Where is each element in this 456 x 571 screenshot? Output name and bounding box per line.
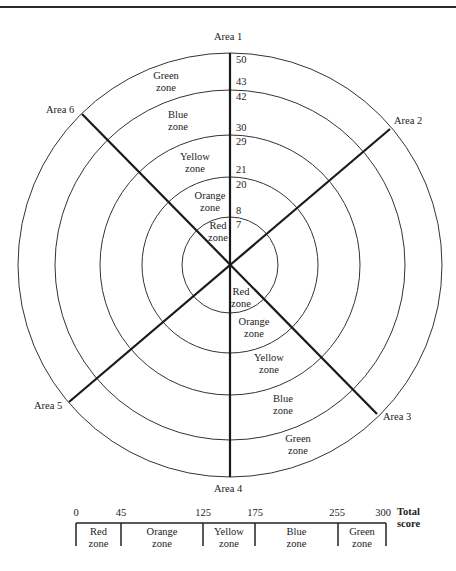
axis-number-20: 20 xyxy=(236,179,247,191)
area-6-label: Area 6 xyxy=(46,104,74,116)
axis-number-42: 42 xyxy=(236,91,247,103)
zone-label-line1: Red xyxy=(193,220,243,232)
zone-label-line2: zone xyxy=(153,121,203,133)
total-score-line1: Total xyxy=(397,506,420,518)
zone-label-line2: zone xyxy=(258,405,308,417)
zone-label-line2: zone xyxy=(185,202,235,214)
upper-green-zone-label: Green zone xyxy=(141,70,191,94)
lower-red-zone-label: Red zone xyxy=(216,286,266,310)
score-tick-300: 300 xyxy=(375,507,391,519)
lower-blue-zone-label: Blue zone xyxy=(258,393,308,417)
score-tick-175: 175 xyxy=(247,507,263,519)
axis-number-21: 21 xyxy=(236,164,247,176)
axis-number-8: 8 xyxy=(236,205,241,217)
segment-line1: Yellow xyxy=(203,526,255,538)
segment-line1: Orange xyxy=(121,526,203,538)
upper-blue-zone-label: Blue zone xyxy=(153,109,203,133)
lower-yellow-zone-label: Yellow zone xyxy=(244,352,294,376)
zone-label-line1: Yellow xyxy=(244,352,294,364)
area-1-label: Area 1 xyxy=(214,31,242,43)
zone-label-line1: Green xyxy=(141,70,191,82)
segment-line1: Blue xyxy=(255,526,338,538)
zone-label-line1: Orange xyxy=(229,316,279,328)
zone-label-line2: zone xyxy=(193,232,243,244)
axis-number-29: 29 xyxy=(236,136,247,148)
zone-label-line1: Orange xyxy=(185,190,235,202)
bar-blue-zone: Blue zone xyxy=(255,526,338,550)
area-4-label: Area 4 xyxy=(214,483,242,495)
upper-yellow-zone-label: Yellow zone xyxy=(170,151,220,175)
lower-orange-zone-label: Orange zone xyxy=(229,316,279,340)
zone-label-line2: zone xyxy=(244,364,294,376)
area-2-label: Area 2 xyxy=(394,115,422,127)
bar-yellow-zone: Yellow zone xyxy=(203,526,255,550)
segment-line2: zone xyxy=(121,538,203,550)
zone-label-line2: zone xyxy=(170,163,220,175)
score-tick-0: 0 xyxy=(73,507,78,519)
axis-number-50: 50 xyxy=(236,54,247,66)
area-5-label: Area 5 xyxy=(34,400,62,412)
segment-line2: zone xyxy=(203,538,255,550)
score-tick-255: 255 xyxy=(329,507,345,519)
total-score-title: Total score xyxy=(397,506,420,530)
zone-label-line1: Blue xyxy=(153,109,203,121)
axis-number-30: 30 xyxy=(236,122,247,134)
zone-label-line1: Red xyxy=(216,286,266,298)
zone-label-line2: zone xyxy=(273,445,323,457)
segment-line2: zone xyxy=(338,538,386,550)
score-tick-125: 125 xyxy=(195,507,211,519)
segment-line2: zone xyxy=(76,538,121,550)
zone-label-line2: zone xyxy=(216,298,266,310)
total-score-line2: score xyxy=(397,518,420,530)
area-3-label: Area 3 xyxy=(383,411,411,423)
score-tick-45: 45 xyxy=(116,507,127,519)
zone-label-line1: Blue xyxy=(258,393,308,405)
bar-orange-zone: Orange zone xyxy=(121,526,203,550)
segment-line2: zone xyxy=(255,538,338,550)
zone-label-line1: Yellow xyxy=(170,151,220,163)
zone-label-line2: zone xyxy=(229,328,279,340)
segment-line1: Green xyxy=(338,526,386,538)
bar-red-zone: Red zone xyxy=(76,526,121,550)
axis-number-43: 43 xyxy=(236,76,247,88)
zone-label-line2: zone xyxy=(141,82,191,94)
bar-green-zone: Green zone xyxy=(338,526,386,550)
segment-line1: Red xyxy=(76,526,121,538)
upper-red-zone-label: Red zone xyxy=(193,220,243,244)
lower-green-zone-label: Green zone xyxy=(273,433,323,457)
zone-label-line1: Green xyxy=(273,433,323,445)
upper-orange-zone-label: Orange zone xyxy=(185,190,235,214)
